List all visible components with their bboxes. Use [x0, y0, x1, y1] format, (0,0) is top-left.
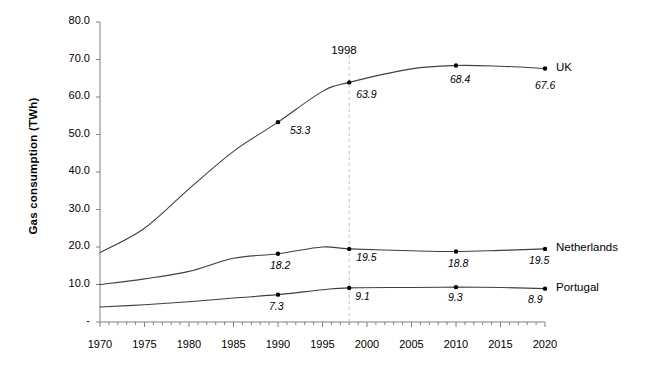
value-label: 67.6 [535, 79, 555, 91]
series-label-uk: UK [556, 61, 572, 73]
data-point-marker [543, 247, 547, 251]
series-layer [100, 65, 545, 307]
axes-layer [96, 22, 545, 327]
value-label: 8.9 [528, 293, 543, 305]
x-tick-label: 1980 [167, 338, 211, 350]
y-tick-label: - [46, 314, 90, 326]
series-label-portugal: Portugal [556, 281, 599, 293]
data-point-marker [347, 247, 351, 251]
data-point-marker [276, 292, 280, 296]
value-label: 9.1 [355, 290, 370, 302]
data-point-marker [276, 252, 280, 256]
series-line-netherlands [100, 247, 545, 285]
value-label: 19.5 [529, 254, 549, 266]
x-tick-label: 1995 [301, 338, 345, 350]
value-label: 7.3 [269, 300, 284, 312]
x-tick-label: 1985 [212, 338, 256, 350]
value-label: 18.2 [270, 259, 290, 271]
y-axis-title: Gas consumption (TWh) [27, 56, 39, 276]
y-tick-label: 20.0 [46, 239, 90, 251]
x-tick-label: 2020 [523, 338, 567, 350]
series-line-portugal [100, 287, 545, 307]
y-tick-label: 60.0 [46, 89, 90, 101]
y-tick-label: 40.0 [46, 164, 90, 176]
data-point-marker [347, 80, 351, 84]
data-point-marker [454, 63, 458, 67]
x-tick-label: 1975 [123, 338, 167, 350]
data-point-marker [454, 249, 458, 253]
chart-container: Gas consumption (TWh) -10.020.030.040.05… [0, 0, 649, 372]
data-point-marker [543, 286, 547, 290]
y-tick-label: 80.0 [46, 14, 90, 26]
value-label: 53.3 [290, 124, 310, 136]
x-tick-label: 2005 [390, 338, 434, 350]
value-label: 9.3 [448, 291, 463, 303]
year-1998-marker: 1998 [331, 44, 357, 56]
y-tick-label: 70.0 [46, 52, 90, 64]
x-tick-label: 2000 [345, 338, 389, 350]
chart-plot-area [0, 0, 649, 372]
value-label: 63.9 [356, 88, 376, 100]
series-label-netherlands: Netherlands [556, 241, 618, 253]
marker-layer [276, 63, 547, 297]
y-tick-label: 10.0 [46, 277, 90, 289]
value-label: 18.8 [448, 257, 468, 269]
x-tick-label: 1970 [78, 338, 122, 350]
data-point-marker [543, 66, 547, 70]
data-point-marker [347, 286, 351, 290]
y-tick-label: 50.0 [46, 127, 90, 139]
data-point-marker [454, 285, 458, 289]
value-label: 68.4 [450, 73, 470, 85]
value-label: 19.5 [356, 251, 376, 263]
x-tick-label: 2015 [479, 338, 523, 350]
x-tick-label: 2010 [434, 338, 478, 350]
series-line-uk [100, 65, 545, 252]
x-tick-label: 1990 [256, 338, 300, 350]
data-point-marker [276, 120, 280, 124]
y-tick-label: 30.0 [46, 202, 90, 214]
